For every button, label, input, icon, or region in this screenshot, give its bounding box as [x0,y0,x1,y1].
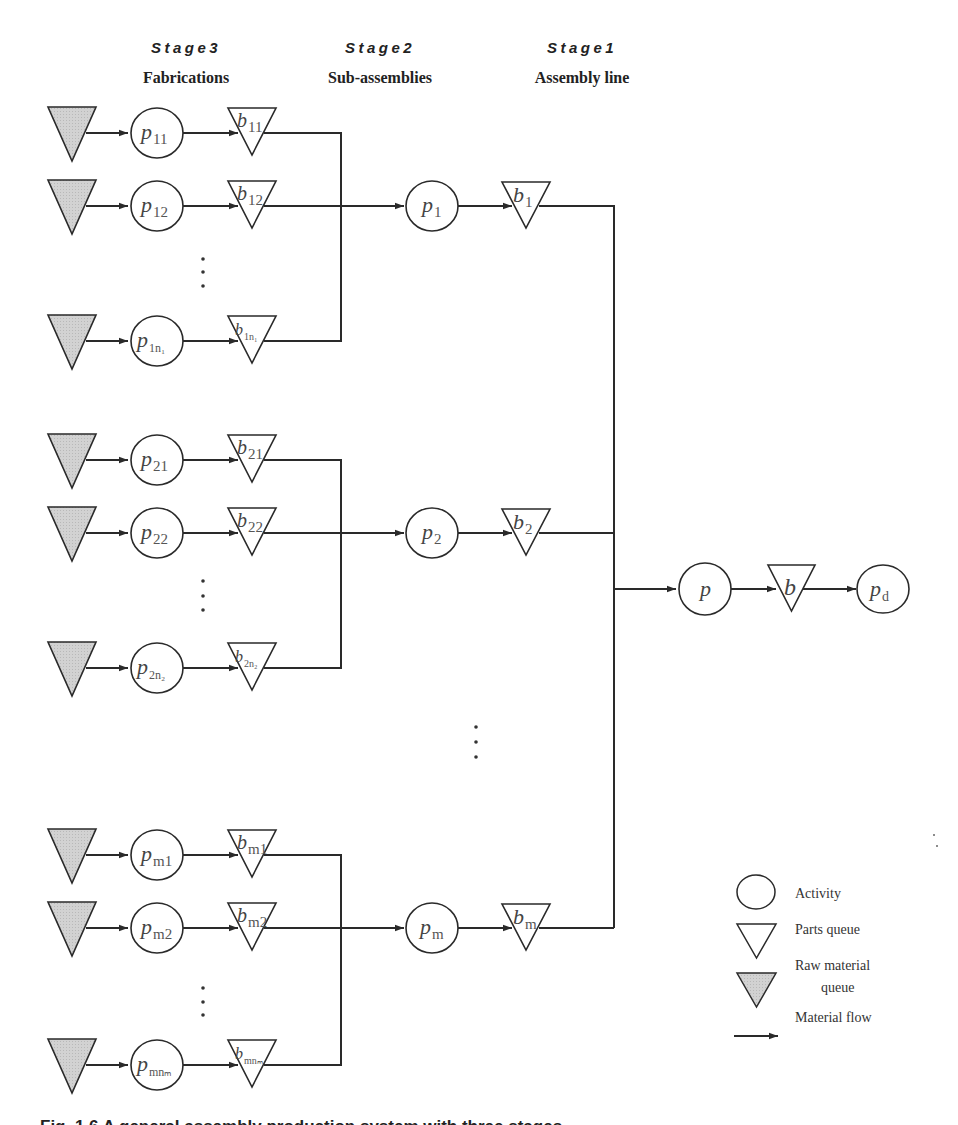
ellipsis-groups [474,725,478,759]
sub-assembly-3: pmbm [341,903,614,953]
fabrication-row: p22b22 [48,507,341,561]
ellipsis-dot [474,725,478,729]
ellipsis-dot [201,1000,205,1004]
assembly-system-diagram: Stage3 Fabrications Stage2 Sub-assemblie… [0,0,958,1125]
stage2-label: Stage2 [345,39,415,56]
stage1-label: Stage1 [547,39,617,56]
fabrication-group-3: pm1bm1pm2bm2pmnₘbmnₘpmbm [48,829,614,1093]
fabrication-row: p1n₁b1n₁ [48,315,341,369]
stray-mark [933,834,935,836]
ellipsis-dot [201,1013,205,1017]
sub-assembly-1: p1b1 [341,181,614,231]
stray-mark [936,845,938,847]
activity-p-label: p [698,576,711,601]
fabrication-row: p21b21 [48,434,341,488]
fabrication-groups: p11b11p12b12p1n₁b1n₁p1b1p21b21p22b22p2n₂… [48,107,614,1093]
ellipsis-dot [201,986,205,990]
fabrication-row: pm2bm2 [48,902,341,956]
ellipsis-dot [201,579,205,583]
sub-assemblies-label: Sub-assemblies [328,69,432,86]
fabrication-row: p12b12 [48,180,341,234]
figure-caption: Fig. 1.6 A general assembly production s… [40,1117,562,1125]
final-assembly-line: p b pd [614,205,909,928]
legend: Activity Parts queue Raw material queue … [734,875,872,1036]
legend-raw-material-label: Raw material [795,958,870,973]
ellipsis-dot [201,594,205,598]
fabrication-group-1: p11b11p12b12p1n₁b1n₁p1b1 [48,107,614,369]
stage-headers: Stage3 Fabrications Stage2 Sub-assemblie… [143,39,629,87]
stage3-label: Stage3 [151,39,221,56]
legend-raw-material-icon [737,973,776,1007]
legend-parts-queue-icon [737,924,776,958]
parts-queue-b-label: b [784,574,796,600]
legend-parts-queue-label: Parts queue [795,922,860,937]
ellipsis-dot [201,270,205,274]
fabrication-row: pmnₘbmnₘ [48,1039,341,1093]
legend-activity-label: Activity [795,886,841,901]
ellipsis-dot [474,740,478,744]
ellipsis-dot [201,257,205,261]
legend-activity-icon [737,875,775,909]
fabrication-row: pm1bm1 [48,829,341,883]
fabrications-label: Fabrications [143,69,229,86]
ellipsis-dot [201,608,205,612]
assembly-line-label: Assembly line [535,69,630,87]
sub-assembly-2: p2b2 [341,508,614,558]
ellipsis-dot [201,284,205,288]
fabrication-row: p2n₂b2n₂ [48,642,341,696]
ellipsis-dot [474,755,478,759]
fabrication-group-2: p21b21p22b22p2n₂b2n₂p2b2 [48,434,614,696]
fabrication-row: p11b11 [48,107,341,161]
legend-material-flow-label: Material flow [795,1010,872,1025]
legend-raw-material-label-2: queue [821,980,854,995]
